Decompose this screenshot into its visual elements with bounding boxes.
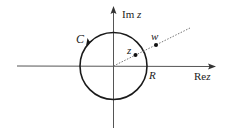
point-w-label: w [151,31,158,42]
real-axis-label: Rez [194,71,211,82]
imaginary-axis-label-var: z [137,8,141,20]
orientation-arrow-icon [86,38,93,46]
point-z-label: z [127,45,131,56]
diagram-canvas [0,0,231,133]
imaginary-axis-label-prefix: Im [122,8,134,20]
radius-label: R [149,70,156,81]
real-axis-label-prefix: Re [194,70,206,82]
complex-plane-diagram: Im z Rez C R z w [0,0,231,133]
contour-label: C [76,33,84,45]
imaginary-axis-label: Im z [122,9,141,20]
real-axis-label-var: z [206,70,210,82]
point-z [134,53,138,57]
point-w [154,43,158,47]
imaginary-axis [111,6,117,128]
